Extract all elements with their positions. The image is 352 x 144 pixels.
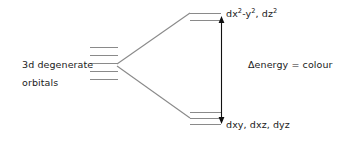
lower-level-group xyxy=(190,113,221,125)
degenerate-orbitals-label: 3d degenerate orbitals xyxy=(22,60,93,88)
degenerate-orbitals-label-line2: orbitals xyxy=(22,78,93,88)
upper-connector-line xyxy=(117,13,190,64)
upper-level-group xyxy=(190,14,221,21)
upper-label-sup3: 2 xyxy=(273,7,277,15)
crystal-field-splitting-diagram: 3d degenerate orbitals dx2-y2, dz2 dxy, … xyxy=(0,0,352,144)
delta-arrow-head-down xyxy=(219,117,225,124)
upper-label-mid: -y xyxy=(242,8,251,19)
connector-group xyxy=(117,13,190,118)
upper-label-sep: , dz xyxy=(256,8,273,19)
upper-label-prefix: dx xyxy=(226,8,238,19)
degenerate-orbitals-label-line1: 3d degenerate xyxy=(22,60,93,70)
degenerate-level-group xyxy=(90,48,118,80)
upper-orbital-set-label: dx2-y2, dz2 xyxy=(226,9,277,19)
delta-arrow-head-up xyxy=(219,16,225,23)
splitting-energy-arrow xyxy=(219,16,225,124)
delta-energy-colour-label: Δenergy = colour xyxy=(248,60,333,70)
lower-orbital-set-label: dxy, dxz, dyz xyxy=(226,120,290,130)
lower-connector-line xyxy=(117,66,190,118)
